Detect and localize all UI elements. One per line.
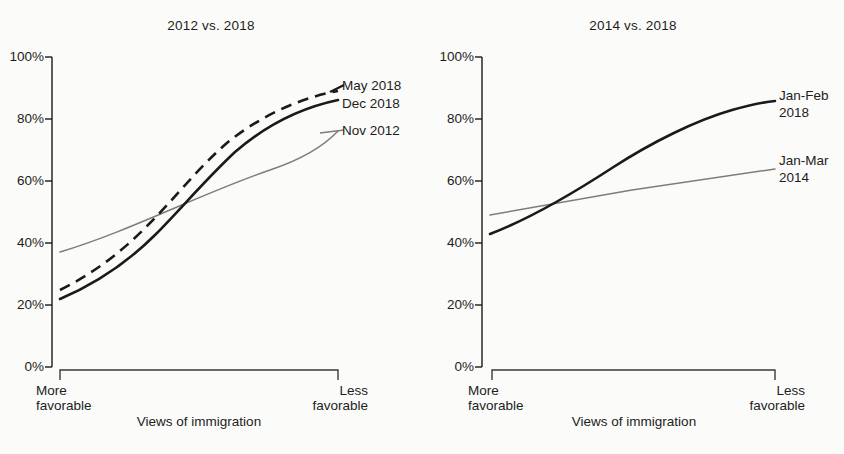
series-label-text: Dec 2018 (342, 96, 400, 111)
series-label-text: Nov 2012 (342, 123, 400, 138)
y-tick-text: 60% (17, 173, 44, 188)
figure-root: 2012 vs. 2018 100% (0, 0, 844, 454)
x-axis-title-left: Views of immigration (99, 414, 299, 429)
y-tick-text: 40% (447, 235, 474, 250)
series-label-dec-2018: Dec 2018 (342, 95, 400, 112)
x-right-line2: favorable (248, 398, 368, 413)
series-label-line1: Jan-Feb (779, 87, 829, 104)
x-left-line1: More (468, 383, 524, 398)
x-left-line1: More (36, 383, 92, 398)
x-right-line1: Less (248, 383, 368, 398)
series-label-text: May 2018 (342, 78, 401, 93)
series-label-jan-mar-2014: Jan-Mar 2014 (779, 152, 829, 186)
x-axis-title-right: Views of immigration (534, 414, 734, 429)
y-tick-text: 20% (17, 297, 44, 312)
series-label-may-2018: May 2018 (342, 77, 401, 94)
chart-panel-left: 2012 vs. 2018 100% (0, 0, 422, 454)
series-line-dec-2018 (60, 100, 338, 299)
y-tick-text: 0% (454, 359, 474, 374)
y-tick-text: 20% (447, 297, 474, 312)
y-tick-text: 80% (447, 111, 474, 126)
x-axis-right-category-right-panel: Less favorable (685, 383, 805, 413)
series-label-nov-2012: Nov 2012 (342, 122, 400, 139)
y-tick-text: 100% (439, 49, 474, 64)
y-tick-text: 100% (9, 49, 44, 64)
series-line-may-2018 (60, 91, 338, 290)
x-left-line2: favorable (468, 398, 524, 413)
y-tick-text: 80% (17, 111, 44, 126)
x-axis-bracket-right (492, 370, 775, 380)
x-right-line1: Less (685, 383, 805, 398)
series-label-jan-feb-2018: Jan-Feb 2018 (779, 87, 829, 121)
series-line-jan-feb-2018 (490, 101, 775, 234)
series-label-line2: 2014 (779, 169, 829, 186)
series-line-jan-mar-2014 (490, 169, 775, 215)
x-left-line2: favorable (36, 398, 92, 413)
series-line-nov-2012 (60, 131, 338, 252)
x-axis-left-category-left-panel: More favorable (36, 383, 92, 413)
series-label-line2: 2018 (779, 104, 829, 121)
series-label-line1: Jan-Mar (779, 152, 829, 169)
x-axis-bracket-left (60, 370, 338, 380)
leader-nov-2012 (320, 130, 344, 133)
x-right-line2: favorable (685, 398, 805, 413)
x-axis-left-category-right-panel: More favorable (468, 383, 524, 413)
chart-panel-right: 2014 vs. 2018 100% 80% 60% (422, 0, 844, 454)
y-tick-text: 60% (447, 173, 474, 188)
x-axis-right-category-left-panel: Less favorable (248, 383, 368, 413)
y-tick-text: 40% (17, 235, 44, 250)
y-tick-text: 0% (24, 359, 44, 374)
